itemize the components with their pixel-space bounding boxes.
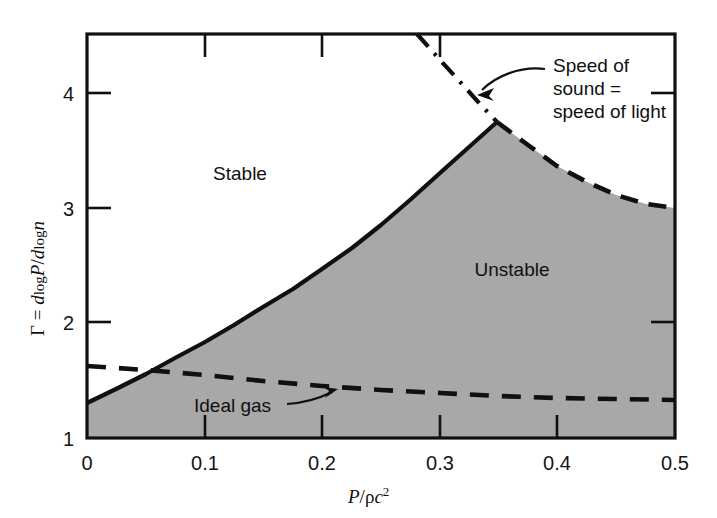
x-axis-title-exponent: 2 [383, 484, 390, 499]
x-tick-label-0: 0 [81, 452, 92, 474]
y-axis-title-d2: d [27, 249, 48, 259]
y-axis-title-gamma: Γ [27, 325, 48, 336]
y-axis-title-d1: d [27, 295, 48, 305]
y-axis-title-logP-log: log [31, 276, 47, 296]
y-axis-title-n: n [27, 221, 48, 231]
speed-of-sound-line-3: speed of light [553, 101, 667, 122]
speed-of-sound-line-2: sound = [553, 78, 621, 99]
y-tick-label-4: 4 [63, 83, 74, 105]
x-tick-label-0.4: 0.4 [543, 452, 571, 474]
x-tick-label-0.2: 0.2 [308, 452, 336, 474]
x-axis-title-rho: ρ [365, 486, 374, 507]
chart-svg: 4 3 2 1 0 0.1 0.2 0.3 0.4 0.5 P/ρc2 Γ = … [0, 0, 717, 518]
y-tick-label-3: 3 [63, 198, 74, 220]
speed-of-sound-line-1: Speed of [553, 55, 630, 76]
svg-text:Γ = dlogP/dlogn: Γ = dlogP/dlogn [27, 221, 48, 336]
ideal-gas-annotation-label: Ideal gas [194, 395, 271, 416]
region-label-unstable: Unstable [475, 259, 550, 280]
y-tick-label-2: 2 [63, 312, 74, 334]
x-tick-label-0.3: 0.3 [426, 452, 454, 474]
x-axis-title-P: P [347, 486, 360, 507]
y-axis-title: Γ = dlogP/dlogn [27, 221, 48, 336]
y-tick-label-1: 1 [63, 428, 74, 450]
x-tick-label-0.1: 0.1 [191, 452, 219, 474]
x-tick-label-0.5: 0.5 [661, 452, 689, 474]
y-axis-title-logn-log: log [31, 230, 47, 250]
stability-phase-diagram-figure: 4 3 2 1 0 0.1 0.2 0.3 0.4 0.5 P/ρc2 Γ = … [0, 0, 717, 518]
region-label-stable: Stable [213, 163, 267, 184]
y-axis-title-P: P [27, 264, 48, 277]
y-axis-title-equals: = [27, 310, 48, 321]
